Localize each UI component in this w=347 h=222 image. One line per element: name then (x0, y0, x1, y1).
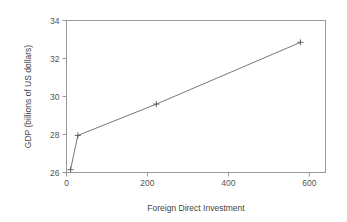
x-tick-label: 400 (221, 178, 235, 188)
y-tick-label: 26 (50, 168, 60, 178)
y-tick-label: 30 (50, 92, 60, 102)
y-tick-label: 32 (50, 54, 60, 64)
x-axis-title: Foreign Direct Investment (147, 203, 245, 213)
y-axis-title: GDP (billions of US dollars) (23, 45, 33, 148)
line-chart: 2628303234 0200400600 Foreign Direct Inv… (0, 0, 347, 222)
x-tick-label: 0 (64, 178, 69, 188)
x-tick-label: 200 (140, 178, 154, 188)
x-tick-label: 600 (302, 178, 316, 188)
chart-container: 2628303234 0200400600 Foreign Direct Inv… (0, 0, 347, 222)
chart-background (0, 0, 347, 222)
y-tick-label: 28 (50, 130, 60, 140)
y-tick-label: 34 (50, 16, 60, 26)
